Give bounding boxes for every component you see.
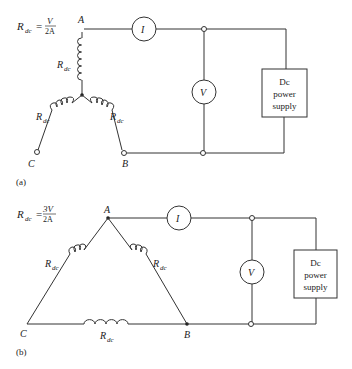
dc-power-supply-b: Dc power supply	[294, 250, 337, 298]
figure-b-label: (b)	[16, 347, 27, 357]
dc-power-supply-a: Dc power supply	[262, 69, 307, 117]
figure-a-wye: R dc = V 2A A I R dc C R dc B	[16, 14, 307, 187]
svg-text:R: R	[109, 111, 116, 122]
svg-text:dc: dc	[52, 264, 60, 272]
svg-text:R: R	[99, 330, 106, 341]
svg-text:dc: dc	[43, 117, 51, 125]
svg-text:R: R	[152, 258, 159, 269]
svg-text:dc: dc	[64, 65, 72, 73]
figure-b-delta: R dc = 3V 2A A I R dc R dc R dc C B	[16, 204, 337, 357]
svg-text:dc: dc	[117, 117, 125, 125]
svg-text:R: R	[35, 111, 42, 122]
svg-text:R: R	[16, 20, 24, 32]
svg-text:B: B	[184, 329, 190, 340]
formula-a: R dc = V 2A	[16, 16, 56, 36]
svg-text:power: power	[273, 89, 296, 99]
ammeter-a: I	[132, 17, 156, 41]
winding-label: R	[56, 59, 63, 70]
svg-text:=: =	[36, 208, 42, 220]
voltmeter-a: V	[192, 80, 216, 104]
node-a-label: A	[77, 14, 85, 25]
svg-text:I: I	[140, 24, 145, 35]
svg-text:Dc: Dc	[310, 258, 321, 268]
svg-text:I: I	[175, 213, 180, 224]
svg-text:2A: 2A	[43, 215, 53, 224]
svg-text:supply: supply	[303, 282, 328, 292]
svg-text:dc: dc	[160, 264, 168, 272]
svg-text:dc: dc	[25, 215, 33, 223]
svg-text:V: V	[47, 16, 54, 26]
svg-text:C: C	[28, 158, 35, 169]
svg-text:R: R	[16, 208, 24, 220]
svg-text:B: B	[122, 158, 128, 169]
svg-text:Dc: Dc	[279, 77, 290, 87]
svg-text:dc: dc	[107, 336, 115, 344]
svg-text:R: R	[44, 258, 51, 269]
svg-text:2A: 2A	[45, 27, 55, 36]
formula-b: R dc = 3V 2A	[16, 204, 56, 224]
svg-text:supply: supply	[272, 101, 297, 111]
svg-text:power: power	[304, 270, 327, 280]
svg-text:dc: dc	[25, 27, 33, 35]
svg-text:A: A	[103, 204, 111, 215]
circuit-diagrams: R dc = V 2A A I R dc C R dc B	[0, 0, 352, 369]
figure-a-label: (a)	[16, 177, 26, 187]
svg-text:=: =	[36, 20, 42, 32]
ammeter-b: I	[167, 206, 191, 230]
svg-text:3V: 3V	[42, 204, 55, 214]
svg-text:C: C	[20, 328, 27, 339]
voltmeter-b: V	[240, 260, 264, 284]
